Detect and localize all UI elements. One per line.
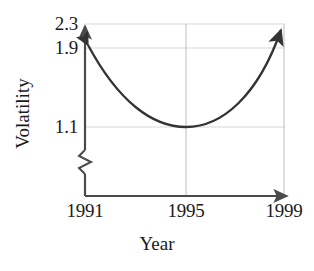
horizontal-gridlines [85, 24, 285, 127]
y-axis-tick-label-2-3: 2.3 [6, 14, 78, 33]
x-axis-title: Year [0, 234, 314, 253]
vertical-gridlines [186, 24, 284, 196]
x-axis-tick-label-1995: 1995 [147, 201, 225, 220]
volatility-year-chart: 2.3 1.9 1.1 1991 1995 1999 Volatility Ye… [0, 0, 314, 271]
y-axis-break-icon [79, 150, 91, 174]
x-axis-tick-label-1999: 1999 [245, 201, 314, 220]
y-axis-tick-label-1-9: 1.9 [6, 38, 78, 57]
y-axis-title: Volatility [13, 66, 32, 162]
volatility-curve [88, 30, 281, 127]
x-axis-tick-label-1991: 1991 [46, 201, 124, 220]
